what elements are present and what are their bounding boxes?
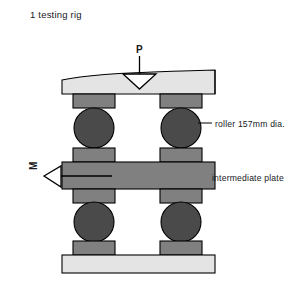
roller-lower-right: [161, 202, 201, 242]
roller-upper-left: [74, 108, 114, 148]
pad-mid-upper-left: [73, 148, 115, 162]
figure-testing-rig: 1 testing rig P M roller 157mm dia. inte…: [0, 0, 308, 290]
pad-lower-left: [73, 241, 115, 255]
moment-arrowhead-icon: [44, 166, 61, 187]
testing-rig-diagram: [0, 0, 308, 290]
pad-mid-lower-right: [160, 189, 202, 203]
pad-upper-right: [160, 94, 202, 108]
pad-upper-left: [73, 94, 115, 108]
roller-lower-left: [74, 202, 114, 242]
bottom-platen: [62, 255, 215, 273]
pad-lower-right: [160, 241, 202, 255]
load-symbol-label: P: [136, 44, 143, 55]
figure-caption: 1 testing rig: [30, 9, 82, 20]
roller-upper-right: [161, 108, 201, 148]
pad-mid-upper-right: [160, 148, 202, 162]
roller-annotation-label: roller 157mm dia.: [215, 119, 285, 129]
pad-mid-lower-left: [73, 189, 115, 203]
moment-symbol-label: M: [28, 161, 39, 170]
intermediate-plate-annotation-label: intermediate plate: [212, 173, 284, 183]
